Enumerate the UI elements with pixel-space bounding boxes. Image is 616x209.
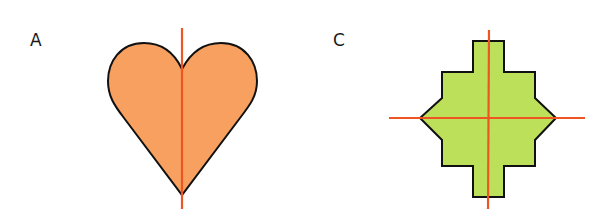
figure-c-stepped-shape bbox=[389, 30, 585, 209]
stepped-vertical-symmetry-line bbox=[488, 30, 489, 209]
figures-canvas bbox=[0, 0, 616, 209]
figure-a-heart bbox=[108, 28, 257, 209]
